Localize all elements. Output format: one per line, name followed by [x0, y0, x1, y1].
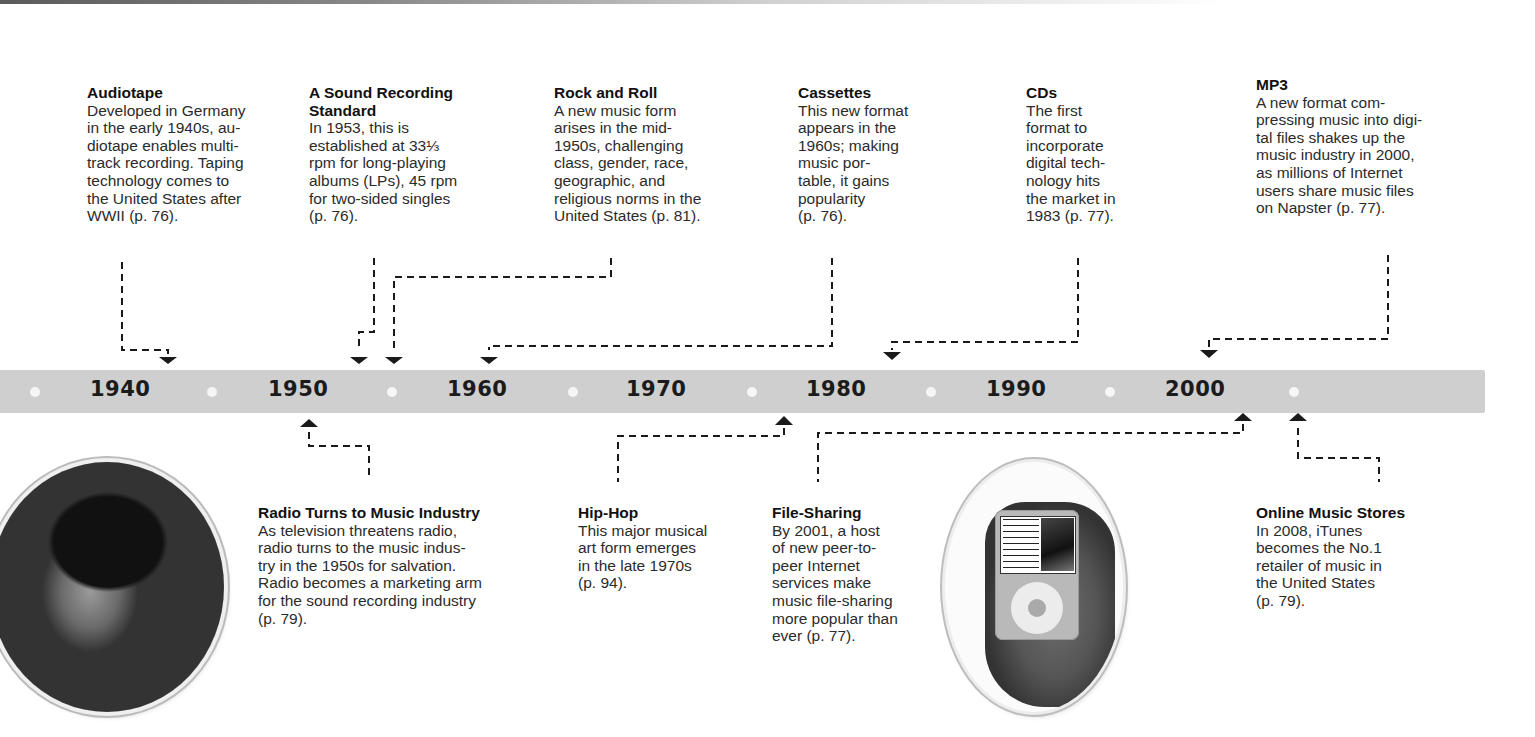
event-file-sharing: File-Sharing By 2001, a host of new peer…	[772, 504, 942, 645]
ipod-in-hand-photo	[945, 462, 1123, 712]
ipod-album-art	[1041, 518, 1074, 571]
ipod-menu	[1003, 519, 1039, 569]
arrow-icons	[159, 350, 1307, 427]
singer-photo	[0, 462, 224, 712]
event-description: By 2001, a host of new peer-to- peer Int…	[772, 522, 942, 645]
event-title: Hip-Hop	[578, 504, 748, 522]
event-description: This major musical art form emerges in t…	[578, 522, 748, 592]
event-title: Online Music Stores	[1256, 504, 1456, 522]
ipod-icon	[995, 510, 1079, 640]
event-radio-turns-to-music: Radio Turns to Music Industry As televis…	[258, 504, 528, 627]
event-description: In 2008, iTunes becomes the No.1 retaile…	[1256, 522, 1456, 610]
event-title: Radio Turns to Music Industry	[258, 504, 528, 522]
ipod-click-wheel	[1011, 582, 1063, 634]
event-title: File-Sharing	[772, 504, 942, 522]
connector-lines	[0, 0, 1535, 737]
ipod-screen	[1000, 516, 1076, 574]
event-description: As television threatens radio, radio tur…	[258, 522, 528, 628]
event-hip-hop: Hip-Hop This major musical art form emer…	[578, 504, 748, 592]
event-online-music-stores: Online Music Stores In 2008, iTunes beco…	[1256, 504, 1456, 610]
